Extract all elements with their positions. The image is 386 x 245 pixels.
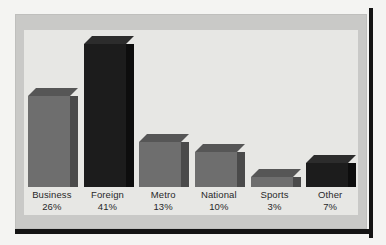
bar-top-face xyxy=(139,134,189,142)
bar-business xyxy=(28,30,70,187)
axis-label-name: National xyxy=(191,189,247,201)
axis-label-name: Foreign xyxy=(80,189,136,201)
axis-label-value: 41% xyxy=(80,201,136,213)
bar-side-face xyxy=(348,163,356,187)
bar-front-face xyxy=(195,152,237,187)
bar-front-face xyxy=(28,96,70,187)
axis-label-value: 13% xyxy=(135,201,191,213)
bar-national xyxy=(195,30,237,187)
chart-page: Business26%Foreign41%Metro13%National10%… xyxy=(0,0,386,245)
bar-top-face xyxy=(84,36,134,44)
frame-shadow-bottom xyxy=(15,229,370,234)
bar-side-face xyxy=(126,44,134,187)
bar-front-face xyxy=(251,177,293,187)
bar-plot-area xyxy=(24,30,358,187)
bar-top-face xyxy=(306,155,356,163)
bar-top-face xyxy=(251,169,301,177)
bar-foreign xyxy=(84,30,126,187)
bar-other xyxy=(306,30,348,187)
bar-front-face xyxy=(306,163,348,187)
axis-label-value: 3% xyxy=(247,201,303,213)
axis-label-sports: Sports3% xyxy=(247,189,303,213)
axis-label-name: Metro xyxy=(135,189,191,201)
category-axis-labels: Business26%Foreign41%Metro13%National10%… xyxy=(24,189,358,215)
axis-label-metro: Metro13% xyxy=(135,189,191,213)
axis-label-value: 10% xyxy=(191,201,247,213)
bar-side-face xyxy=(237,152,245,187)
bar-side-face xyxy=(293,177,301,187)
axis-label-value: 26% xyxy=(24,201,80,213)
axis-label-name: Business xyxy=(24,189,80,201)
bar-side-face xyxy=(181,142,189,187)
axis-label-business: Business26% xyxy=(24,189,80,213)
axis-label-value: 7% xyxy=(302,201,358,213)
bar-side-face xyxy=(70,96,78,187)
bar-top-face xyxy=(28,88,78,96)
bar-sports xyxy=(251,30,293,187)
axis-label-name: Sports xyxy=(247,189,303,201)
bar-front-face xyxy=(84,44,126,187)
bar-front-face xyxy=(139,142,181,187)
axis-label-name: Other xyxy=(302,189,358,201)
axis-label-foreign: Foreign41% xyxy=(80,189,136,213)
bar-top-face xyxy=(195,144,245,152)
axis-label-other: Other7% xyxy=(302,189,358,213)
frame-shadow-right xyxy=(369,8,373,238)
bar-metro xyxy=(139,30,181,187)
axis-label-national: National10% xyxy=(191,189,247,213)
